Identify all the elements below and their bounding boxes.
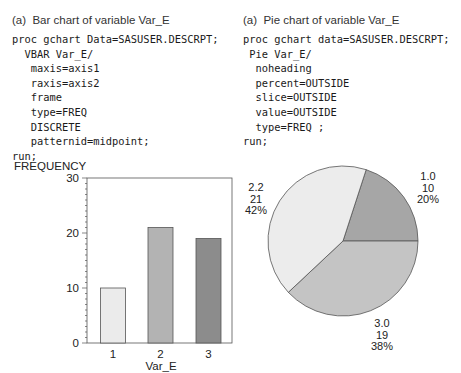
bar-chart: 0102030123Var_E 1.01020%3.01938%2.22142% <box>0 0 461 373</box>
bar-1 <box>101 288 126 343</box>
pie-slice-label: 2.2 <box>248 181 263 193</box>
bar-2 <box>148 228 173 344</box>
y-tick-label: 20 <box>66 227 79 239</box>
pie-slice-label: 19 <box>376 329 388 341</box>
x-tick-label: 2 <box>157 348 163 360</box>
pie-slice-label: 21 <box>250 193 262 205</box>
y-tick-label: 10 <box>66 282 79 294</box>
bar-chart-x-axis-title: Var_E <box>145 360 176 372</box>
y-tick-label: 30 <box>66 172 79 184</box>
x-tick-label: 1 <box>110 348 116 360</box>
pie-slice-label: 42% <box>245 204 267 216</box>
x-tick-label: 3 <box>205 348 211 360</box>
pie-chart-plot: 1.01020%3.01938%2.22142% <box>245 166 439 352</box>
bar-3 <box>196 239 221 344</box>
pie-slice-label: 10 <box>422 182 434 194</box>
y-tick-label: 0 <box>73 337 79 349</box>
pie-slice-label: 20% <box>417 193 439 205</box>
pie-slice-label: 38% <box>371 340 393 352</box>
pie-slice-label: 3.0 <box>374 317 389 329</box>
pie-slice-label: 1.0 <box>420 170 435 182</box>
bar-chart-plot: 0102030123Var_E <box>66 172 232 372</box>
